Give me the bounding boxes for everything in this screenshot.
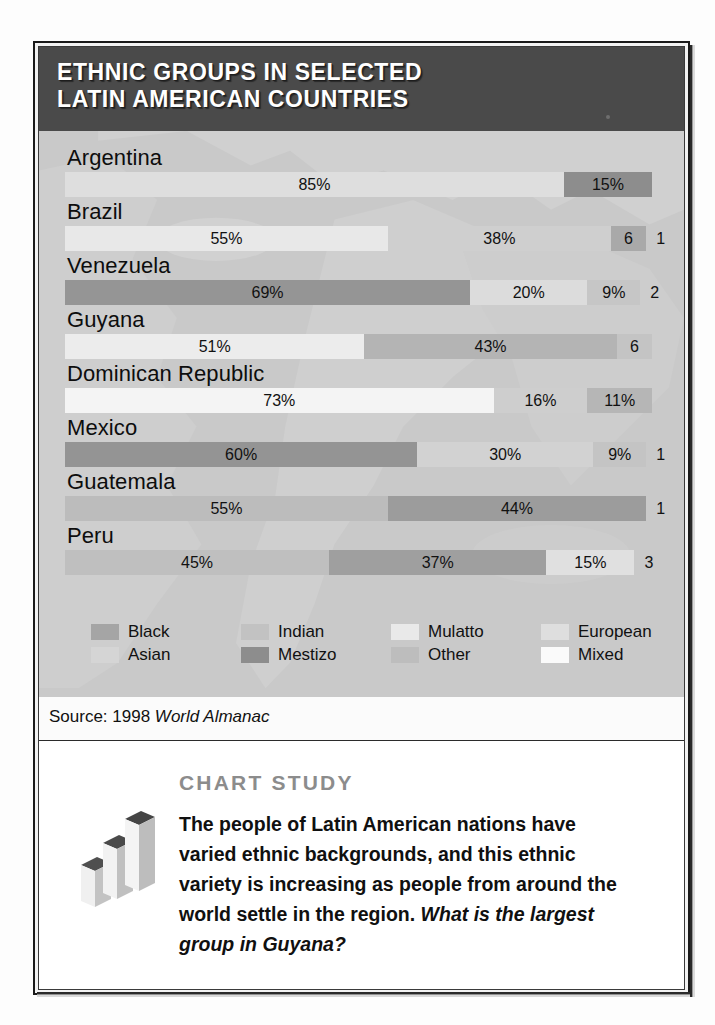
legend-item: Other [391,644,541,666]
source-prefix: Source: 1998 [49,707,155,726]
bar-segment-label: 51% [199,338,231,356]
legend-item: Mestizo [241,644,391,666]
chart-study-title: CHART STUDY [179,771,354,795]
chart-page: ETHNIC GROUPS IN SELECTED LATIN AMERICAN… [0,0,715,1025]
stacked-bar: 55%38%61 [65,226,652,251]
bar-segment-label: 30% [489,446,521,464]
country-label: Guyana [65,307,674,334]
country-label: Peru [65,523,674,550]
legend-swatch [541,647,569,663]
bar-segment-outside-label: 1 [656,442,665,467]
source-bar: Source: 1998 World Almanac [39,697,684,741]
legend-item: Mixed [541,644,684,666]
header-speck-icon [606,115,610,119]
bar-segment: 11% [587,388,652,413]
bar-segment-label: 73% [263,392,295,410]
bar-segment: 37% [329,550,546,575]
legend-item: Indian [241,621,391,643]
chart-row: Guyana51%43%6 [65,307,674,359]
chart-plot-area: Argentina85%15%Brazil55%38%61Venezuela69… [39,131,684,697]
stacked-bar: 85%15% [65,172,652,197]
chart-rows: Argentina85%15%Brazil55%38%61Venezuela69… [65,145,674,575]
country-label: Guatemala [65,469,674,496]
chart-row: Brazil55%38%61 [65,199,674,251]
legend-label: European [578,621,652,643]
legend-label: Indian [278,621,324,643]
bar-segment-label: 9% [608,446,631,464]
bar-segment-outside-label: 3 [644,550,653,575]
bar-segment-label: 11% [604,392,635,410]
stacked-bar: 69%20%9%2 [65,280,652,305]
chart-row: Venezuela69%20%9%2 [65,253,674,305]
bar-segment-label: 60% [225,446,257,464]
bar-segment-label: 6 [624,230,633,248]
chart-rows-container: Argentina85%15%Brazil55%38%61Venezuela69… [39,131,684,697]
bar-segment-label: 45% [181,554,213,572]
bar-segment: 38% [388,226,611,251]
source-note: Source: 1998 World Almanac [49,707,270,727]
bar-segment: 51% [65,334,364,359]
legend-item: Black [91,621,241,643]
legend-item: Mulatto [391,621,541,643]
bar-segment: 30% [417,442,593,467]
country-label: Mexico [65,415,674,442]
stacked-bar: 73%16%11% [65,388,652,413]
bar-segment: 6 [611,226,646,251]
bar-segment: 15% [564,172,652,197]
stacked-bar: 51%43%6 [65,334,652,359]
legend-swatch [241,624,269,640]
bar-segment-label: 15% [574,554,606,572]
bar-segment: 9% [593,442,646,467]
legend-swatch [391,624,419,640]
legend-swatch [91,624,119,640]
bar-segment-label: 37% [422,554,454,572]
country-label: Argentina [65,145,674,172]
chart-frame-inner: ETHNIC GROUPS IN SELECTED LATIN AMERICAN… [38,46,685,990]
legend-label: Asian [128,644,171,666]
chart-study-section: CHART STUDY The people of Latin American… [39,741,684,989]
bar-segment: 43% [364,334,616,359]
chart-legend: BlackAsianIndianMestizoMulattoOtherEurop… [91,621,684,666]
bar-segment-outside-label: 1 [656,226,665,251]
bar-segment: 16% [494,388,588,413]
bar-segment-label: 43% [475,338,507,356]
country-label: Dominican Republic [65,361,674,388]
legend-label: Mestizo [278,644,337,666]
bar-segment: 55% [65,496,388,521]
bar-segment-label: 20% [513,284,545,302]
bar-segment: 9% [587,280,640,305]
bar-segment: 20% [470,280,587,305]
bar-segment-outside-label: 2 [650,280,659,305]
chart-row: Dominican Republic73%16%11% [65,361,674,413]
bar-segment: 55% [65,226,388,251]
legend-swatch [91,647,119,663]
country-label: Brazil [65,199,674,226]
frame-right-shadow [690,45,695,997]
bar-segment-label: 15% [592,176,624,194]
bar-segment-label: 55% [210,230,242,248]
legend-label: Mixed [578,644,623,666]
bar-segment: 44% [388,496,646,521]
bar-chart-3d-icon [77,803,163,913]
bar-segment: 69% [65,280,470,305]
bar-segment: 85% [65,172,564,197]
legend-swatch [541,624,569,640]
bar-segment-label: 6 [630,338,639,356]
chart-study-body: The people of Latin American nations hav… [179,809,634,959]
bar-segment-label: 55% [210,500,242,518]
stacked-bar: 55%44%1 [65,496,652,521]
chart-row: Peru45%37%15%3 [65,523,674,575]
chart-row: Mexico60%30%9%1 [65,415,674,467]
bar-segment-label: 38% [483,230,515,248]
country-label: Venezuela [65,253,674,280]
stacked-bar: 45%37%15%3 [65,550,652,575]
page-title: ETHNIC GROUPS IN SELECTED LATIN AMERICAN… [57,59,684,113]
bar-segment-label: 85% [298,176,330,194]
frame-bottom-shadow [37,992,694,997]
legend-item: European [541,621,684,643]
legend-swatch [391,647,419,663]
bar-segment: 6 [617,334,652,359]
legend-label: Black [128,621,170,643]
bar-segment-outside-label: 1 [656,496,665,521]
stacked-bar: 60%30%9%1 [65,442,652,467]
